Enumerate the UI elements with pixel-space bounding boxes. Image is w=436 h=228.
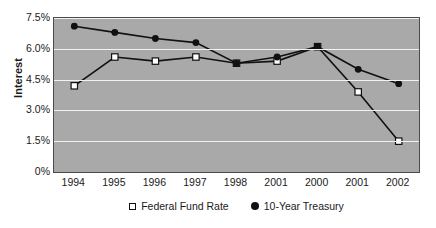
gridline	[54, 141, 419, 142]
x-axis-tick-label: 1997	[173, 176, 217, 188]
gridline	[54, 110, 419, 111]
x-axis-tick-label: 1996	[132, 176, 176, 188]
x-axis-tick-label: 2000	[295, 176, 339, 188]
plot-area	[53, 17, 420, 173]
y-axis-tick-labels: 7.5%6.0%4.5%3.0%1.5%0%	[2, 0, 50, 228]
series-1	[71, 44, 402, 145]
interest-rate-line-chart: Interest 7.5%6.0%4.5%3.0%1.5%0% 19941995…	[0, 0, 436, 228]
data-point-square	[71, 83, 77, 89]
data-point-square	[193, 54, 199, 60]
x-axis-tick-label: 2001	[254, 176, 298, 188]
x-axis-tick-label: 1998	[214, 176, 258, 188]
data-point-circle	[193, 39, 200, 46]
y-axis-tick-label: 0%	[6, 166, 50, 176]
open-square-icon	[129, 203, 136, 210]
series-lines	[54, 18, 419, 172]
gridline	[54, 18, 419, 19]
data-point-square	[112, 54, 118, 60]
gridline	[54, 80, 419, 81]
filled-circle-icon	[251, 202, 259, 210]
legend-item-label: 10-Year Treasury	[264, 200, 344, 212]
gridline	[54, 49, 419, 50]
data-point-circle	[111, 29, 118, 36]
y-axis-tick-label: 4.5%	[6, 74, 50, 84]
data-point-square	[355, 89, 361, 95]
legend-item: Federal Fund Rate	[129, 200, 229, 212]
y-axis-tick-label: 3.0%	[6, 104, 50, 114]
data-point-circle	[152, 35, 159, 42]
data-point-circle	[395, 80, 402, 87]
data-point-circle	[274, 54, 281, 61]
y-axis-tick-label: 6.0%	[6, 43, 50, 53]
x-axis-tick-labels: 199419951996199719982001200020012002	[53, 176, 420, 192]
data-point-square	[152, 58, 158, 64]
series-line	[74, 26, 398, 83]
y-axis-tick-label: 1.5%	[6, 135, 50, 145]
x-axis-tick-label: 2002	[376, 176, 420, 188]
legend-item: 10-Year Treasury	[251, 200, 344, 212]
y-axis-tick-label: 7.5%	[6, 12, 50, 22]
x-axis-tick-label: 1995	[92, 176, 136, 188]
series-2	[71, 23, 402, 87]
data-point-circle	[71, 23, 78, 30]
legend-item-label: Federal Fund Rate	[141, 200, 229, 212]
chart-legend: Federal Fund Rate10-Year Treasury	[53, 198, 420, 214]
data-point-circle	[233, 60, 240, 67]
data-point-circle	[355, 66, 362, 73]
x-axis-tick-label: 2001	[335, 176, 379, 188]
x-axis-tick-label: 1994	[51, 176, 95, 188]
